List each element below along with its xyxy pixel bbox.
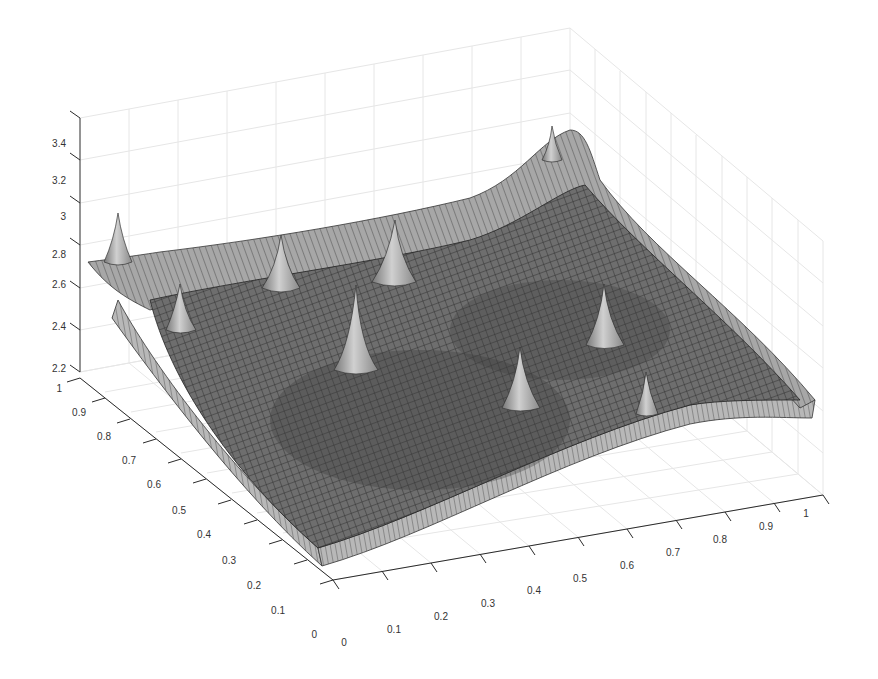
x-tick-label: 1 — [803, 508, 809, 519]
z-tick-label: 3.2 — [52, 175, 66, 186]
z-tick-label: 2.6 — [52, 279, 66, 290]
x-tick-label: 0.9 — [759, 521, 773, 532]
y-tick-label: 0.8 — [97, 431, 111, 442]
y-tick-label: 0.6 — [147, 479, 161, 490]
x-tick-label: 0.7 — [666, 547, 680, 558]
y-tick-label: 0.4 — [197, 529, 211, 540]
z-axis: 2.2 2.4 2.6 2.8 3 3.2 3.4 — [52, 111, 80, 374]
surface-plot: 2.2 2.4 2.6 2.8 3 3.2 3.4 0 0.1 0.2 0.3 … — [0, 0, 878, 679]
y-tick-label: 0.3 — [222, 555, 236, 566]
y-tick-label: 0.9 — [72, 407, 86, 418]
x-tick-label: 0.6 — [620, 560, 634, 571]
y-tick-label: 0.7 — [122, 455, 136, 466]
y-tick-label: 0.2 — [247, 580, 261, 591]
x-tick-label: 0.5 — [573, 573, 587, 584]
z-tick-label: 2.8 — [52, 249, 66, 260]
x-tick-label: 0 — [341, 637, 347, 648]
y-tick-label: 1 — [56, 383, 62, 394]
x-tick-label: 0.1 — [387, 624, 401, 635]
z-tick-label: 2.4 — [52, 321, 66, 332]
y-tick-label: 0 — [311, 629, 317, 640]
z-tick-label: 2.2 — [52, 363, 66, 374]
y-tick-label: 0.1 — [271, 605, 285, 616]
x-tick-label: 0.4 — [527, 585, 541, 596]
x-tick-label: 0.8 — [713, 534, 727, 545]
z-tick-label: 3 — [60, 211, 66, 222]
y-tick-label: 0.5 — [172, 505, 186, 516]
surface — [88, 126, 815, 566]
x-tick-label: 0.2 — [434, 611, 448, 622]
z-tick-label: 3.4 — [52, 138, 66, 149]
x-tick-label: 0.3 — [481, 598, 495, 609]
